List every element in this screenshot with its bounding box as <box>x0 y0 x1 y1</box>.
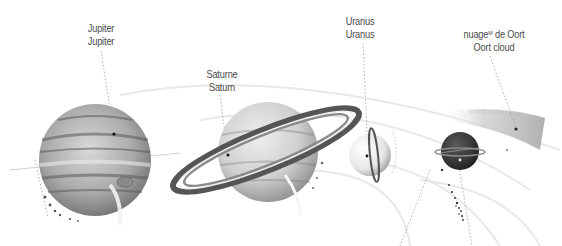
label-jupiter: Jupiter Jupiter <box>75 22 126 48</box>
label-saturn-en: Saturn <box>196 81 249 94</box>
label-jupiter-fr: Jupiter <box>75 22 126 35</box>
label-uranus: Uranus Uranus <box>334 15 385 41</box>
label-oort-cloud: nuageM de Oort Oort cloud <box>452 28 536 54</box>
saturn <box>166 94 366 215</box>
label-saturn: Saturne Saturn <box>196 68 249 94</box>
label-oort-en: Oort cloud <box>452 41 536 54</box>
jupiter <box>10 104 180 225</box>
label-oort-fr: nuageM de Oort <box>452 28 536 41</box>
label-uranus-en: Uranus <box>334 28 385 41</box>
label-uranus-fr: Uranus <box>334 15 385 28</box>
uranus <box>349 128 396 183</box>
neptune <box>435 132 485 221</box>
label-saturn-fr: Saturne <box>196 68 249 81</box>
label-jupiter-en: Jupiter <box>75 35 126 48</box>
outer-planets-diagram: Jupiter Jupiter Saturne Saturn Uranus Ur… <box>0 0 562 246</box>
